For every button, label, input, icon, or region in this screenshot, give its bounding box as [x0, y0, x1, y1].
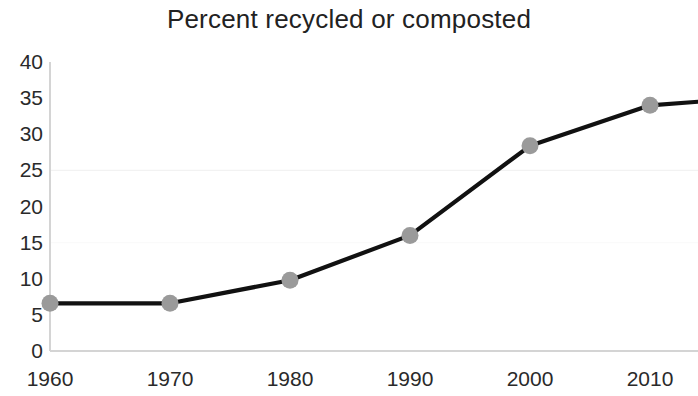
- data-point-markers: [42, 97, 659, 312]
- x-axis-tick-label: 1990: [365, 368, 455, 389]
- data-point-marker: [522, 137, 539, 154]
- y-axis-tick-label: 15: [20, 232, 43, 253]
- y-axis-tick-label: 20: [20, 196, 43, 217]
- gridlines: [50, 170, 698, 242]
- x-axis-tick-label: 1960: [5, 368, 95, 389]
- data-point-marker: [42, 295, 59, 312]
- data-line: [50, 102, 698, 304]
- y-axis-tick-label: 35: [20, 87, 43, 108]
- x-axis-tick-label: 1980: [245, 368, 335, 389]
- x-axis-tick-label: 2010: [605, 368, 695, 389]
- plot-area: [0, 0, 698, 396]
- axes: [50, 62, 698, 351]
- data-point-marker: [282, 272, 299, 289]
- y-axis-tick-label: 25: [20, 159, 43, 180]
- y-axis-tick-label: 30: [20, 123, 43, 144]
- y-axis-tick-label: 40: [20, 51, 43, 72]
- y-axis-tick-label: 5: [31, 304, 43, 325]
- chart-container: Percent recycled or composted 0510152025…: [0, 0, 698, 396]
- y-axis-tick-label: 10: [20, 268, 43, 289]
- x-axis-tick-label: 2000: [485, 368, 575, 389]
- data-point-marker: [642, 97, 659, 114]
- data-point-marker: [402, 227, 419, 244]
- data-point-marker: [162, 295, 179, 312]
- y-axis-tick-label: 0: [31, 340, 43, 361]
- x-axis-tick-label: 1970: [125, 368, 215, 389]
